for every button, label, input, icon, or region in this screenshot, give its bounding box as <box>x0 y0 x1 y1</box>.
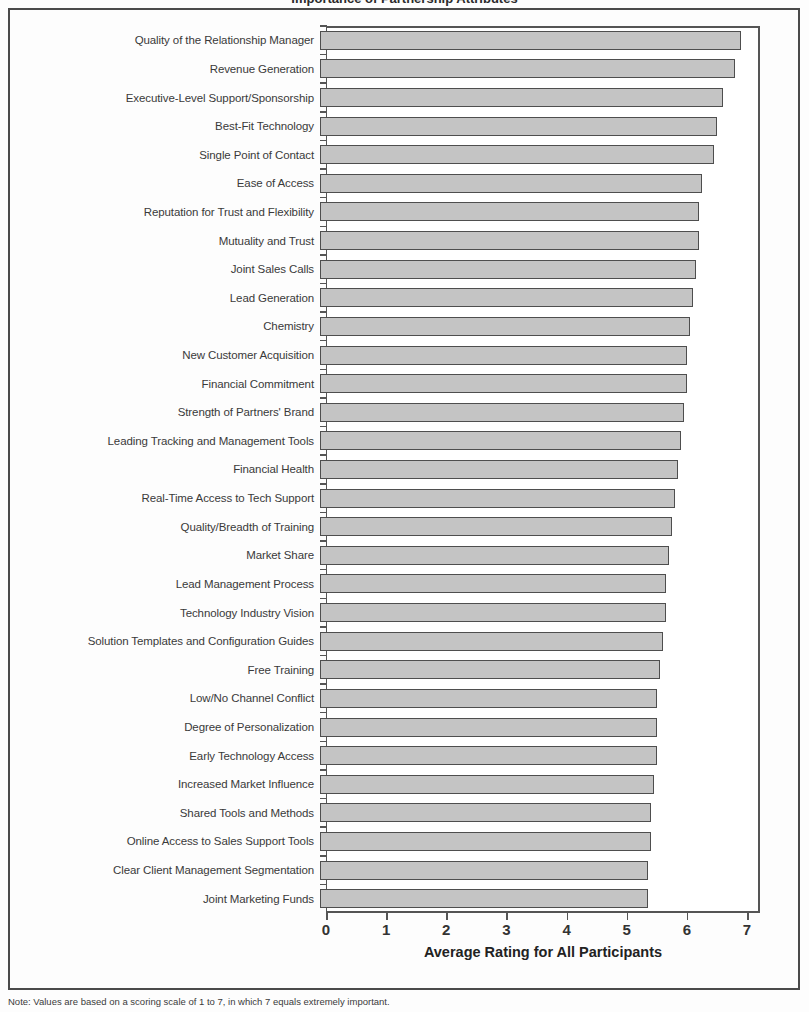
bar-track <box>320 169 809 198</box>
bar-row: Joint Sales Calls <box>0 255 809 284</box>
bar <box>320 431 681 450</box>
bar-track <box>320 741 809 770</box>
bar-row: Mutuality and Trust <box>0 226 809 255</box>
bar <box>320 746 657 765</box>
bar-track <box>320 284 809 313</box>
bar-row: Technology Industry Vision <box>0 598 809 627</box>
bar-track <box>320 312 809 341</box>
category-label: Joint Sales Calls <box>0 263 320 275</box>
category-label: Lead Generation <box>0 292 320 304</box>
figure-page: Importance of Partnership Attributes Qua… <box>0 0 809 1012</box>
bar <box>320 202 699 221</box>
bar-track <box>320 55 809 84</box>
bar-track <box>320 570 809 599</box>
bar-row: Executive-Level Support/Sponsorship <box>0 83 809 112</box>
x-axis-title: Average Rating for All Participants <box>326 944 760 960</box>
bar <box>320 603 666 622</box>
bar-row: Clear Client Management Segmentation <box>0 856 809 885</box>
category-label: Technology Industry Vision <box>0 607 320 619</box>
x-axis-line: 01234567 <box>326 911 760 913</box>
category-label: Leading Tracking and Management Tools <box>0 435 320 447</box>
bar <box>320 718 657 737</box>
bar-track <box>320 255 809 284</box>
bar <box>320 317 690 336</box>
chart-title-text: Importance of Partnership Attributes <box>0 0 809 6</box>
category-label: Low/No Channel Conflict <box>0 692 320 704</box>
clipped-chart-title: Importance of Partnership Attributes <box>0 0 809 7</box>
x-axis-tick-label: 5 <box>612 921 642 938</box>
x-axis-tick-label: 4 <box>552 921 582 938</box>
bar-row: Reputation for Trust and Flexibility <box>0 198 809 227</box>
bar-row: Solution Templates and Configuration Gui… <box>0 627 809 656</box>
category-label: Lead Management Process <box>0 578 320 590</box>
bar-row: Market Share <box>0 541 809 570</box>
bar <box>320 174 702 193</box>
bar-row: Quality of the Relationship Manager <box>0 26 809 55</box>
bar <box>320 660 660 679</box>
bar <box>320 31 741 50</box>
bar-row: Best-Fit Technology <box>0 112 809 141</box>
bar-row: Degree of Personalization <box>0 713 809 742</box>
category-label: Quality/Breadth of Training <box>0 521 320 533</box>
x-axis-tick <box>386 911 388 920</box>
bar-row: Low/No Channel Conflict <box>0 684 809 713</box>
bar-track <box>320 455 809 484</box>
bar-row: Online Access to Sales Support Tools <box>0 827 809 856</box>
x-axis-tick-label: 2 <box>431 921 461 938</box>
x-axis-tick-label: 6 <box>672 921 702 938</box>
category-label: Degree of Personalization <box>0 721 320 733</box>
bar <box>320 145 714 164</box>
x-axis-tick <box>687 911 689 920</box>
bar <box>320 489 675 508</box>
category-label: Free Training <box>0 664 320 676</box>
bar-row: Lead Management Process <box>0 570 809 599</box>
category-label: Quality of the Relationship Manager <box>0 34 320 46</box>
bar-track <box>320 484 809 513</box>
category-label: Financial Commitment <box>0 378 320 390</box>
x-axis-tick <box>747 911 749 920</box>
bar <box>320 231 699 250</box>
bar-track <box>320 827 809 856</box>
bar-row: Strength of Partners' Brand <box>0 398 809 427</box>
category-label: Mutuality and Trust <box>0 235 320 247</box>
bar <box>320 775 654 794</box>
x-axis-tick <box>506 911 508 920</box>
category-label: Joint Marketing Funds <box>0 893 320 905</box>
bar-row: Joint Marketing Funds <box>0 884 809 913</box>
bar <box>320 574 666 593</box>
category-label: Ease of Access <box>0 177 320 189</box>
category-label: Market Share <box>0 549 320 561</box>
bar-track <box>320 341 809 370</box>
bar <box>320 517 672 536</box>
bar <box>320 260 696 279</box>
x-axis-tick <box>567 911 569 920</box>
category-label: Increased Market Influence <box>0 778 320 790</box>
bar-track <box>320 713 809 742</box>
bar-row: Ease of Access <box>0 169 809 198</box>
bar <box>320 632 663 651</box>
x-axis-tick-label: 1 <box>371 921 401 938</box>
bar-track <box>320 684 809 713</box>
bar-track <box>320 884 809 913</box>
bar-rows-container: Quality of the Relationship ManagerReven… <box>0 26 809 913</box>
bar <box>320 460 678 479</box>
bar <box>320 117 717 136</box>
x-axis-tick <box>326 911 328 920</box>
bar-row: Financial Health <box>0 455 809 484</box>
bar-track <box>320 369 809 398</box>
bar-track <box>320 541 809 570</box>
bar-track <box>320 198 809 227</box>
bar-row: Single Point of Contact <box>0 140 809 169</box>
bar-track <box>320 26 809 55</box>
category-label: Revenue Generation <box>0 63 320 75</box>
bar <box>320 59 735 78</box>
bar-row: Real-Time Access to Tech Support <box>0 484 809 513</box>
bar <box>320 803 651 822</box>
bar-row: Shared Tools and Methods <box>0 799 809 828</box>
bar <box>320 546 669 565</box>
bar-track <box>320 226 809 255</box>
category-label: Chemistry <box>0 320 320 332</box>
bar-track <box>320 512 809 541</box>
bar <box>320 88 723 107</box>
category-label: Real-Time Access to Tech Support <box>0 492 320 504</box>
